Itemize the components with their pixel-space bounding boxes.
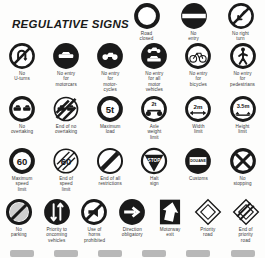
sign-no-overtaking: Noovertaking (0, 95, 44, 140)
sign-motorway-exit: Motorwayexit (151, 198, 189, 243)
svg-text:5t: 5t (106, 104, 115, 115)
end-of-all-restrictions-icon (96, 147, 124, 175)
svg-text:3.5m: 3.5m (236, 103, 249, 109)
use-of-horns-prohibited-label: Use ofhornsprohibited (76, 227, 113, 243)
axle-weight-limit-icon: 2t (140, 95, 168, 123)
halt-sign-label: Haltsign (133, 176, 175, 187)
priority-road-icon (194, 198, 222, 226)
sign-end-of-all-restrictions: End of allrestrictions (88, 147, 132, 192)
sign-no-entry-pedestrians: No entryforpedestrians (220, 42, 264, 93)
sign-no-entry-motorcycles: No entryformotor-cycles (88, 42, 132, 93)
no-right-turn-label: No rightturn (220, 31, 262, 42)
no-entry-all-motor-icon (140, 42, 168, 70)
customs-icon: DOUANE (184, 147, 212, 175)
sign-cutoff-partial (132, 250, 176, 258)
sign-no-parking: Noparking (0, 198, 38, 243)
sign-cutoff-partial (88, 250, 132, 258)
end-of-priority-road-label: End ofpriorityroad (227, 227, 264, 243)
sign-cutoff-partial (44, 250, 88, 258)
sign-no-right-turn: No rightturn (217, 2, 264, 42)
sign-height-limit: 3.5mHeightlimit (220, 95, 264, 140)
end-of-speed-limit-label: End ofspeedlimit (45, 176, 87, 192)
sign-halt-sign: STOPHaltsign (132, 147, 176, 192)
partial-sign-icon (96, 250, 124, 258)
no-entry-pedestrians-icon (229, 42, 257, 70)
no-u-turns-label: NoU-turns (1, 71, 43, 82)
svg-text:STOP: STOP (148, 158, 161, 163)
sign-maximum-load: 5tMaximumload (88, 95, 132, 140)
no-entry-motorcars-icon (52, 42, 80, 70)
sign-use-of-horns-prohibited: Use ofhornsprohibited (76, 198, 114, 243)
road-closed-label: Roadclosed (126, 31, 168, 42)
sign-priority-to-oncoming: Priority tooncomingvehicles (38, 198, 76, 243)
height-limit-label: Heightlimit (222, 124, 264, 135)
axle-weight-limit-label: Axleweightlimit (133, 124, 175, 140)
svg-text:DOUANE: DOUANE (191, 159, 207, 163)
sign-row-4: 60Maximumspeedlimit60End ofspeedlimitEnd… (0, 147, 265, 192)
direction-obligatory-label: Directionobligatory (114, 227, 151, 238)
svg-text:2m: 2m (194, 103, 203, 110)
sign-cutoff-partial (0, 250, 44, 258)
end-of-priority-road-icon (232, 198, 260, 226)
priority-to-oncoming-icon (43, 198, 71, 226)
halt-sign-icon: STOP (140, 147, 168, 175)
sign-no-entry-bicycles: No entryforbicycles (176, 42, 220, 93)
sign-row-5: NoparkingPriority tooncomingvehiclesUse … (0, 198, 265, 243)
partial-sign-icon (140, 250, 168, 258)
end-of-no-overtaking-icon (52, 95, 80, 123)
sign-end-of-priority-road: End ofpriorityroad (227, 198, 265, 243)
priority-to-oncoming-label: Priority tooncomingvehicles (38, 227, 75, 243)
no-overtaking-icon (8, 95, 36, 123)
direction-obligatory-icon (118, 198, 146, 226)
motorway-exit-label: Motorwayexit (152, 227, 189, 238)
partial-sign-icon (229, 250, 257, 258)
no-u-turns-icon (8, 42, 36, 70)
sign-no-stopping: Nostopping (220, 147, 264, 192)
sign-end-of-speed-limit: 60End ofspeedlimit (44, 147, 88, 192)
maximum-load-icon: 5t (96, 95, 124, 123)
sign-no-entry-all-motor: No entryfor allmotorvehicles (132, 42, 176, 93)
motorway-exit-icon (156, 198, 184, 226)
sign-row-3: NoovertakingEnd of noovertaking5tMaximum… (0, 95, 265, 140)
no-entry-all-motor-label: No entryfor allmotorvehicles (133, 71, 175, 93)
sign-cutoff-partial (220, 250, 264, 258)
no-entry-icon (180, 2, 208, 30)
width-limit-label: Widthlimit (177, 124, 219, 135)
width-limit-icon: 2m (184, 95, 212, 123)
height-limit-icon: 3.5m (229, 95, 257, 123)
sign-priority-road: Priorityroad (189, 198, 227, 243)
customs-label: Customs (177, 176, 219, 181)
partial-sign-icon (8, 250, 36, 258)
no-parking-label: Noparking (0, 227, 37, 238)
road-closed-icon (133, 2, 161, 30)
no-entry-bicycles-label: No entryforbicycles (177, 71, 219, 87)
no-entry-pedestrians-label: No entryforpedestrians (222, 71, 264, 87)
regulative-signs-sheet: REGULATIVE SIGNS RoadclosedNoentryNo rig… (0, 0, 265, 258)
page-title-text: REGULATIVE SIGNS (0, 18, 129, 30)
no-overtaking-label: Noovertaking (1, 124, 43, 135)
svg-text:60: 60 (17, 156, 28, 167)
sign-row-2: NoU-turnsNo entryformotorcarsNo entryfor… (0, 42, 265, 93)
no-stopping-icon (229, 147, 257, 175)
sign-row-6-cutoff (0, 250, 265, 258)
no-right-turn-icon (227, 2, 255, 30)
end-of-all-restrictions-label: End of allrestrictions (89, 176, 131, 187)
maximum-speed-limit-label: Maximumspeedlimit (1, 176, 43, 192)
maximum-load-label: Maximumload (89, 124, 131, 135)
sign-no-u-turns: NoU-turns (0, 42, 44, 93)
sign-width-limit: 2mWidthlimit (176, 95, 220, 140)
no-entry-motorcycles-icon (96, 42, 124, 70)
partial-sign-icon (52, 250, 80, 258)
sign-customs: DOUANECustoms (176, 147, 220, 192)
partial-sign-icon (184, 250, 212, 258)
sign-no-entry: Noentry (170, 2, 217, 42)
no-parking-icon (5, 198, 33, 226)
sign-no-entry-motorcars: No entryformotorcars (44, 42, 88, 93)
sign-road-closed: Roadclosed (123, 2, 170, 42)
no-entry-bicycles-icon (184, 42, 212, 70)
no-entry-motorcars-label: No entryformotorcars (45, 71, 87, 87)
maximum-speed-limit-icon: 60 (8, 147, 36, 175)
sign-end-of-no-overtaking: End of noovertaking (44, 95, 88, 140)
no-entry-motorcycles-label: No entryformotor-cycles (89, 71, 131, 93)
priority-road-label: Priorityroad (189, 227, 226, 238)
